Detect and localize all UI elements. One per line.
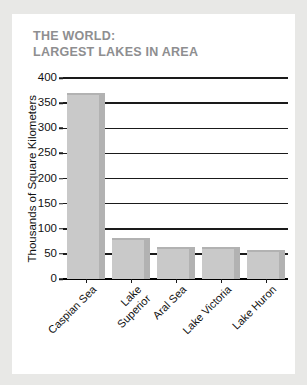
x-tick-mark-3 bbox=[221, 279, 223, 283]
y-tick-mark-0 bbox=[59, 278, 63, 280]
y-tick-mark-50 bbox=[59, 253, 63, 255]
bar-side-shading bbox=[189, 247, 195, 279]
x-tick-label-lake-huron: Lake Huron bbox=[229, 283, 278, 332]
y-tick-label-250: 250 bbox=[38, 148, 57, 160]
y-tick-mark-200 bbox=[59, 178, 63, 180]
y-tick-label-200: 200 bbox=[38, 173, 57, 185]
bar-side-shading bbox=[144, 238, 150, 279]
y-tick-label-400: 400 bbox=[38, 72, 57, 84]
bar-lake-victoria[interactable] bbox=[202, 247, 240, 279]
chart-card: THE WORLD: LARGEST LAKES IN AREA Thousan… bbox=[12, 14, 295, 374]
y-tick-mark-250 bbox=[59, 153, 63, 155]
plot-area: 050100150200250300350400 bbox=[63, 78, 288, 279]
bar-caspian-sea[interactable] bbox=[67, 93, 105, 279]
y-tick-label-100: 100 bbox=[38, 223, 57, 235]
y-tick-mark-300 bbox=[59, 128, 63, 130]
y-tick-mark-350 bbox=[59, 102, 63, 104]
bar-chart: Thousands of Square Kilometers 050100150… bbox=[12, 14, 295, 374]
x-tick-label-aral-sea: Aral Sea bbox=[150, 283, 189, 322]
y-tick-mark-100 bbox=[59, 228, 63, 230]
bar-side-shading bbox=[279, 250, 285, 279]
bar-top-shading bbox=[112, 238, 150, 240]
bar-aral-sea[interactable] bbox=[157, 247, 195, 279]
bar-top-shading bbox=[67, 93, 105, 95]
bar-top-shading bbox=[157, 247, 195, 249]
x-tick-mark-4 bbox=[266, 279, 268, 283]
bar-side-shading bbox=[99, 93, 105, 279]
x-tick-mark-1 bbox=[131, 279, 133, 283]
x-tick-mark-0 bbox=[86, 279, 88, 283]
y-tick-label-50: 50 bbox=[44, 248, 57, 260]
y-tick-label-300: 300 bbox=[38, 123, 57, 135]
bar-top-shading bbox=[247, 250, 285, 252]
y-tick-label-150: 150 bbox=[38, 198, 57, 210]
bar-side-shading bbox=[234, 247, 240, 279]
page-background: THE WORLD: LARGEST LAKES IN AREA Thousan… bbox=[0, 0, 307, 385]
y-tick-mark-150 bbox=[59, 203, 63, 205]
y-tick-mark-400 bbox=[59, 77, 63, 79]
x-tick-label-caspian-sea: Caspian Sea bbox=[45, 283, 98, 336]
bar-lake-huron[interactable] bbox=[247, 250, 285, 279]
bar-lake-superior[interactable] bbox=[112, 238, 150, 279]
gridline-400 bbox=[63, 77, 288, 79]
y-tick-label-0: 0 bbox=[51, 273, 57, 285]
x-tick-mark-2 bbox=[176, 279, 178, 283]
y-tick-label-350: 350 bbox=[38, 97, 57, 109]
bar-top-shading bbox=[202, 247, 240, 249]
x-tick-label-lake-superior: Lake Superior bbox=[105, 283, 152, 330]
